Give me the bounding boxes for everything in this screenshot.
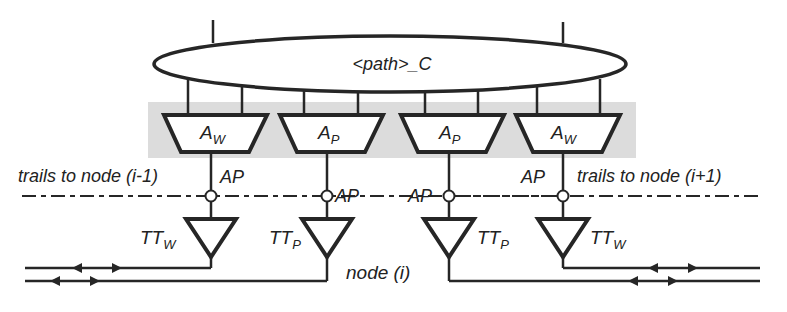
node-label: node (i) [346, 262, 410, 283]
trail-termination-ttp-left: TTP [269, 219, 352, 257]
ap-label: AP [219, 167, 244, 187]
access-point-circle [558, 191, 569, 202]
adaptation-function-aw-left: AW [164, 115, 267, 152]
ap-label: AP [520, 167, 545, 187]
access-point-circle [444, 191, 455, 202]
access-point-circle [206, 191, 217, 202]
vertical-links [211, 152, 563, 218]
tt-label: TTW [590, 227, 627, 252]
path-connection-label: <path>_C [352, 54, 432, 74]
adaptation-function-ap-left: AP [280, 115, 383, 152]
trail-termination-ttp-right: TTP [424, 219, 509, 257]
network-node-diagram: <path>_C AW AP AP AW AP AP AP AP trails … [0, 0, 787, 312]
tt-label: TTP [477, 227, 509, 252]
ap-label: AP [407, 186, 432, 206]
access-point-circle [322, 191, 333, 202]
trails-left-label: trails to node (i-1) [18, 166, 158, 186]
adaptation-function-aw-right: AW [516, 115, 620, 152]
adaptation-function-ap-right: AP [401, 115, 504, 152]
ap-label: AP [334, 186, 359, 206]
tt-label: TTW [140, 227, 177, 252]
trail-termination-ttw-left: TTW [140, 219, 236, 257]
tt-label: TTP [269, 227, 301, 252]
trail-termination-ttw-right: TTW [538, 219, 627, 257]
trails-right-label: trails to node (i+1) [577, 166, 722, 186]
